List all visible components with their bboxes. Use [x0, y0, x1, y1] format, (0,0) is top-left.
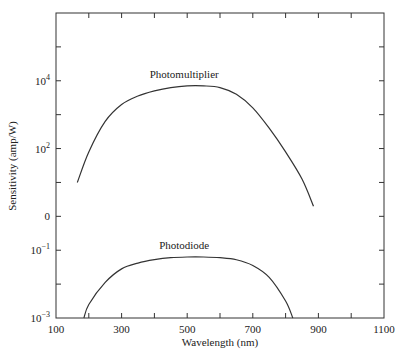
x-tick-label: 500	[179, 323, 196, 335]
photomultiplier-label: Photomultiplier	[150, 68, 219, 80]
y-tick-label: 104	[35, 73, 50, 87]
x-tick-label: 900	[310, 323, 327, 335]
photodiode-curve	[84, 257, 293, 318]
chart: 1003005007009001100 104102010−110−3 Phot…	[0, 0, 403, 362]
y-tick-label: 10−3	[30, 310, 50, 324]
y-tick-label: 0	[45, 210, 51, 222]
photodiode-label: Photodiode	[159, 239, 209, 251]
x-axis-title: Wavelength (nm)	[182, 336, 259, 349]
y-axis-title: Sensitivity (amp/W)	[6, 121, 19, 211]
series-lines: PhotomultiplierPhotodiode	[77, 68, 313, 318]
plot-border	[56, 13, 384, 318]
y-axis: 104102010−110−3	[30, 47, 384, 324]
x-tick-label: 100	[48, 323, 65, 335]
y-tick-label: 10−1	[30, 242, 50, 256]
photomultiplier-curve	[77, 86, 313, 207]
x-tick-label: 1100	[373, 323, 395, 335]
x-tick-label: 700	[245, 323, 262, 335]
y-tick-label: 102	[35, 141, 50, 155]
x-tick-label: 300	[113, 323, 130, 335]
plot-frame	[56, 13, 384, 318]
x-axis: 1003005007009001100	[48, 13, 396, 335]
